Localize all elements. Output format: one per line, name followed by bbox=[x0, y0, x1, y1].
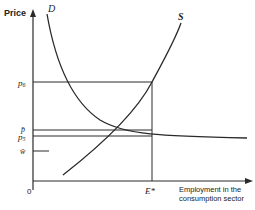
supply-label: S bbox=[178, 11, 184, 22]
x-axis-label-line2: consumption sector bbox=[179, 194, 245, 203]
origin-label: 0 bbox=[27, 187, 32, 196]
y-axis-label: Price bbox=[4, 8, 26, 18]
y-axis-arrow-icon bbox=[30, 9, 36, 17]
supply-curve bbox=[63, 23, 181, 175]
x-axis-arrow-icon bbox=[245, 178, 253, 184]
x-axis-label-line1: Employment in the bbox=[179, 185, 241, 194]
e-star-label: E* bbox=[144, 186, 155, 196]
p6-label: p6 bbox=[17, 78, 26, 88]
demand-curve bbox=[47, 14, 247, 138]
supply-demand-diagram: Price D S p6 p̄ p5 w̄ 0 E* Employment in… bbox=[0, 0, 255, 210]
w-bar-label: w̄ bbox=[20, 147, 26, 156]
demand-label: D bbox=[47, 3, 56, 14]
